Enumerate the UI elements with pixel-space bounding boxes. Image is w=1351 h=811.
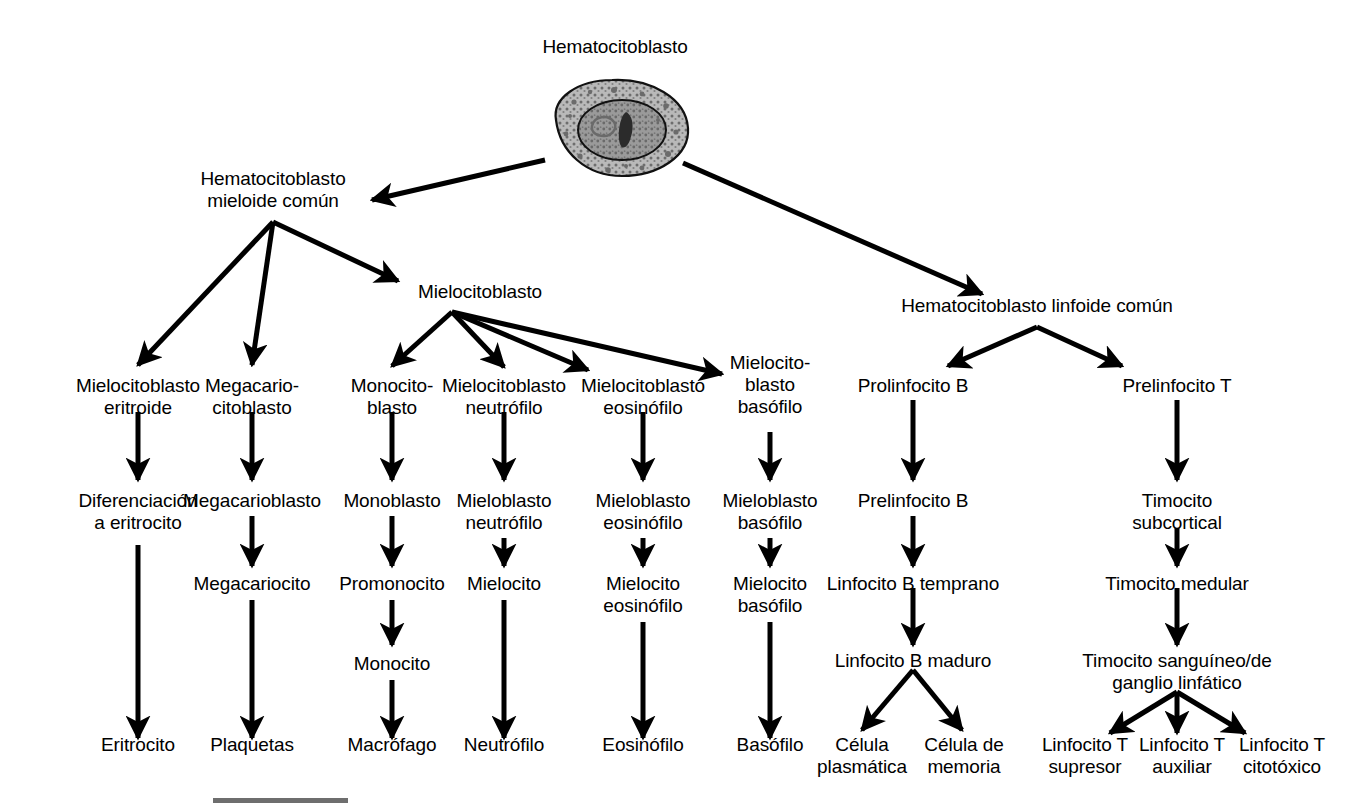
node-mielocitoblasto-basofilo: Mielocito- blasto basófilo xyxy=(730,352,810,418)
node-prolinfocito-b: Prolinfocito B xyxy=(858,375,969,397)
arrow-lymphoid-to-t xyxy=(1037,327,1122,366)
node-hematocitoblasto: Hematocitoblasto xyxy=(542,36,687,58)
node-monocitoblasto: Monocito- blasto xyxy=(351,375,434,419)
node-macrofago: Macrófago xyxy=(348,734,437,756)
node-monoblasto: Monoblasto xyxy=(343,490,440,512)
node-timocito-sanguineo-ganglio-linfatico: Timocito sanguíneo/de ganglio linfático xyxy=(1082,650,1271,694)
node-promonocito: Promonocito xyxy=(339,573,445,595)
node-timocito-subcortical: Timocito subcortical xyxy=(1132,490,1222,534)
arrow-myeloblast-to-basophil xyxy=(452,312,722,374)
hematopoiesis-diagram: Hematocitoblasto Hematocitoblasto mieloi… xyxy=(0,0,1351,811)
node-plaquetas: Plaquetas xyxy=(210,734,294,756)
node-monocito: Monocito xyxy=(354,653,430,675)
node-linfocito-b-maduro: Linfocito B maduro xyxy=(835,650,992,672)
node-mielocitoblasto-eosinofilo: Mielocitoblasto eosinófilo xyxy=(581,375,705,419)
arrow-myeloblast-to-monocytic xyxy=(392,312,452,366)
arrow-b-to-plasma xyxy=(862,670,913,730)
node-celula-de-memoria: Célula de memoria xyxy=(924,734,1003,778)
node-mieloblasto-neutrofilo: Mieloblasto neutrófilo xyxy=(456,490,551,534)
node-mielocito-basofilo: Mielocito basófilo xyxy=(733,573,807,617)
node-mielocitoblasto-eritroide: Mielocitoblasto eritroide xyxy=(76,375,200,419)
node-linfocito-b-temprano: Linfocito B temprano xyxy=(827,573,999,595)
node-mielocito: Mielocito xyxy=(467,573,541,595)
arrow-t-to-citotoxico xyxy=(1177,692,1245,733)
node-eosinofilo: Eosinófilo xyxy=(602,734,683,756)
node-hematocitoblasto-mieloide-comun: Hematocitoblasto mieloide común xyxy=(200,168,345,212)
node-linfocito-t-supresor: Linfocito T supresor xyxy=(1042,734,1128,778)
arrow-b-to-memory xyxy=(913,670,962,730)
footer-rule xyxy=(213,798,348,803)
node-prelinfocito-t: Prelinfocito T xyxy=(1122,375,1231,397)
node-mieloblasto-eosinofilo: Mieloblasto eosinófilo xyxy=(595,490,690,534)
node-megacariocito: Megacariocito xyxy=(194,573,311,595)
node-timocito-medular: Timocito medular xyxy=(1105,573,1248,595)
node-hematocitoblasto-linfoide-comun: Hematocitoblasto linfoide común xyxy=(901,295,1173,317)
arrow-myeloid-to-myeloblast xyxy=(273,222,398,281)
node-basofilo: Basófilo xyxy=(737,734,804,756)
node-linfocito-t-citotoxico: Linfocito T citotóxico xyxy=(1239,734,1325,778)
node-eritrocito: Eritrocito xyxy=(101,734,175,756)
hematocitoblasto-cell-illustration xyxy=(530,72,698,182)
arrow-root-to-myeloid xyxy=(372,160,545,200)
node-mieloblasto-basofilo: Mieloblasto basófilo xyxy=(722,490,817,534)
node-celula-plasmatica: Célula plasmática xyxy=(817,734,907,778)
node-megacarioblasto: Megacarioblasto xyxy=(183,490,321,512)
node-prelinfocito-b: Prelinfocito B xyxy=(858,490,969,512)
node-neutrofilo: Neutrófilo xyxy=(464,734,544,756)
node-mielocitoblasto: Mielocitoblasto xyxy=(418,281,542,303)
node-mielocito-eosinofilo: Mielocito eosinófilo xyxy=(603,573,682,617)
node-diferenciacion-a-eritrocito: Diferenciación a eritrocito xyxy=(79,490,198,534)
arrow-lymphoid-to-b xyxy=(948,327,1037,366)
node-linfocito-t-auxiliar: Linfocito T auxiliar xyxy=(1139,734,1225,778)
node-mielocitoblasto-neutrofilo: Mielocitoblasto neutrófilo xyxy=(442,375,566,419)
arrow-root-to-lymphoid xyxy=(683,163,982,294)
node-megacariocitoblasto: Megacario- citoblasto xyxy=(205,375,299,419)
arrow-t-to-supresor xyxy=(1110,692,1177,733)
